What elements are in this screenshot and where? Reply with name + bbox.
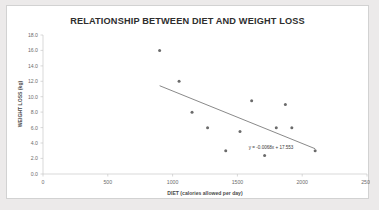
- y-axis-tick-labels: 18.0 16.0 14.0 12.0 10.0 8.0 6.0 4.0 2.0…: [28, 32, 38, 177]
- scatter-plot: 18.0 16.0 14.0 12.0 10.0 8.0 6.0 4.0 2.0…: [7, 6, 370, 200]
- y-tick-label: 10.0: [28, 94, 38, 100]
- y-axis-ticks: [41, 35, 44, 174]
- data-point: [206, 126, 209, 129]
- y-tick-label: 8.0: [31, 109, 38, 115]
- data-point: [263, 154, 266, 157]
- x-axis-tick-labels: 0 500 1000 1500 2000 2500: [42, 179, 370, 185]
- x-axis-ticks: [43, 174, 367, 177]
- y-axis-title: WEIGHT LOSS (kg): [17, 80, 23, 127]
- x-tick-label: 2000: [296, 179, 308, 185]
- y-tick-label: 4.0: [31, 140, 38, 146]
- y-tick-label: 0.0: [31, 171, 38, 177]
- x-tick-label: 0: [42, 179, 45, 185]
- data-point: [314, 149, 317, 152]
- x-tick-label: 2500: [361, 179, 370, 185]
- data-point: [158, 49, 161, 52]
- data-point: [224, 149, 227, 152]
- y-tick-label: 2.0: [31, 155, 38, 161]
- data-point: [238, 130, 241, 133]
- chart-card: RELATIONSHIP BETWEEN DIET AND WEIGHT LOS…: [6, 5, 369, 199]
- x-tick-label: 500: [103, 179, 112, 185]
- data-points-group: [158, 49, 317, 157]
- y-tick-label: 12.0: [28, 78, 38, 84]
- x-axis-title: DIET (calories allowed per day): [167, 190, 243, 196]
- x-tick-label: 1000: [167, 179, 179, 185]
- data-point: [250, 99, 253, 102]
- trendline: [160, 86, 316, 149]
- y-tick-label: 6.0: [31, 125, 38, 131]
- data-point: [290, 126, 293, 129]
- y-tick-label: 14.0: [28, 63, 38, 69]
- data-point: [284, 103, 287, 106]
- data-point: [191, 111, 194, 114]
- trendline-equation-label: y = -0.0068x + 17.553: [249, 145, 294, 150]
- data-point: [178, 80, 181, 83]
- data-point: [275, 126, 278, 129]
- y-tick-label: 16.0: [28, 47, 38, 53]
- y-tick-label: 18.0: [28, 32, 38, 38]
- x-tick-label: 1500: [232, 179, 244, 185]
